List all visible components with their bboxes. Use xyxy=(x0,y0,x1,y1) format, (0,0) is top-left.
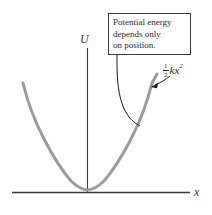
y-axis-label: U xyxy=(80,33,89,45)
exponent-symbol: 2 xyxy=(179,63,183,70)
potential-energy-curve xyxy=(23,74,157,190)
fraction-denominator: 2 xyxy=(163,70,169,79)
callout-leader-line xyxy=(117,55,140,126)
spring-potential-energy-figure: U x Potential energy depends only on pos… xyxy=(0,0,212,215)
x-axis-label: x xyxy=(194,186,199,198)
fraction-numerator: 1 xyxy=(163,62,169,70)
curve-formula-label: 1 2 kx2 xyxy=(163,62,183,79)
one-half-fraction: 1 2 xyxy=(163,62,169,79)
callout-box: Potential energy depends only on positio… xyxy=(108,13,191,55)
callout-text: Potential energy depends only on positio… xyxy=(113,17,190,52)
